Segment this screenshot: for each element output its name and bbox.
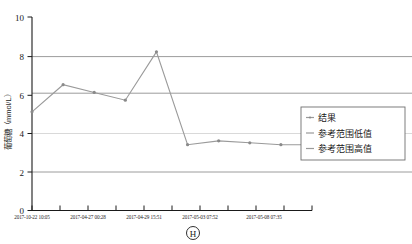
- data-point[interactable]: [62, 83, 65, 86]
- data-point[interactable]: [155, 50, 158, 53]
- data-point[interactable]: [30, 110, 33, 113]
- data-point[interactable]: [124, 99, 127, 102]
- glucose-line-chart: 10 8 6 4 2 0 葡萄糖（mmol/L） 2017-10-22 10:0…: [0, 0, 412, 244]
- x-tick-label-1: 2017-04-27 00:28: [70, 214, 106, 220]
- legend[interactable]: 结果 参考范围低值 参考范围高值: [301, 107, 405, 160]
- x-tick-label-3: 2017-05-03 07:52: [182, 214, 218, 220]
- y-tick-label-8: 8: [20, 52, 25, 62]
- x-tick-label-2: 2017-04-29 15:51: [126, 214, 162, 220]
- y-axis-title: 葡萄糖（mmol/L）: [3, 90, 13, 150]
- y-tick-label-2: 2: [20, 168, 25, 178]
- data-point[interactable]: [248, 141, 251, 144]
- chart-canvas: 10 8 6 4 2 0 葡萄糖（mmol/L） 2017-10-22 10:0…: [0, 0, 412, 244]
- y-tick-label-4: 4: [20, 129, 25, 139]
- h-annotation-label: H: [190, 229, 197, 239]
- legend-label-result[interactable]: 结果: [318, 112, 336, 123]
- legend-marker-result: [309, 116, 311, 118]
- y-tick-label-6: 6: [20, 91, 25, 101]
- data-point[interactable]: [279, 143, 282, 146]
- x-tick-label-4: 2017-05-08 07:35: [246, 214, 282, 220]
- data-point[interactable]: [93, 91, 96, 94]
- data-point[interactable]: [217, 139, 220, 142]
- legend-label-reference-low[interactable]: 参考范围低值: [318, 128, 372, 139]
- x-tick-label-0: 2017-10-22 10:05: [14, 214, 50, 220]
- y-tick-label-10: 10: [15, 13, 25, 23]
- data-point[interactable]: [186, 143, 189, 146]
- legend-label-reference-high[interactable]: 参考范围高值: [318, 143, 372, 154]
